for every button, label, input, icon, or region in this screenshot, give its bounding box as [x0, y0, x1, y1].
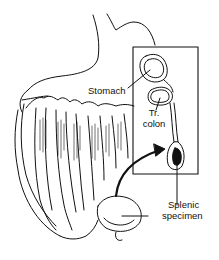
tr-colon-label-line1: Tr. — [140, 108, 168, 118]
tr-colon-label-line2: colon — [136, 119, 172, 129]
omentum-top-edge — [26, 96, 134, 108]
diagram-drawing — [0, 0, 219, 260]
splenic-label-line1: Splenic — [168, 200, 199, 210]
omentum-left-edge — [15, 110, 60, 236]
anatomical-diagram: Stomach Tr. colon Splenic specimen — [0, 0, 219, 260]
small-arrow — [115, 232, 122, 241]
stomach-top — [107, 14, 155, 45]
stomach-outline — [28, 15, 99, 90]
curved-arrow — [116, 150, 160, 196]
stomach-label: Stomach — [88, 86, 126, 96]
colon-upper — [20, 90, 28, 112]
splenic-label-line2: specimen — [162, 211, 203, 221]
spleen-region — [97, 196, 141, 231]
